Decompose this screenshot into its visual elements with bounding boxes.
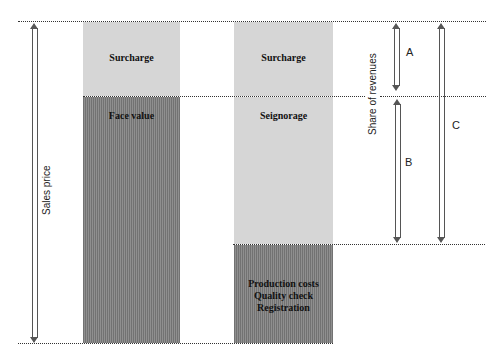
bracket-c-arrow [439,28,445,238]
face-value-block: Face value [83,97,180,343]
sales-price-arrow [32,28,38,338]
bottom-reference-line [18,343,333,344]
bracket-b-label: B [405,156,412,168]
share-of-revenues-label: Share of revenues [367,53,378,135]
face-value-label: Face value [83,110,180,122]
right-surcharge-block: Surcharge [234,22,333,96]
production-costs-block: Production costs Quality check Registrat… [234,245,333,343]
right-surcharge-label: Surcharge [234,52,333,64]
registration-label: Registration [234,302,333,314]
seignorage-block: Seignorage [234,97,333,244]
quality-check-label: Quality check [234,290,333,302]
seignorage-label: Seignorage [234,110,333,122]
left-surcharge-label: Surcharge [83,52,180,64]
production-costs-label: Production costs [234,278,333,290]
left-surcharge-block: Surcharge [83,22,180,96]
bracket-b-arrow [395,104,401,238]
bracket-a-label: A [406,46,413,58]
sales-price-label: Sales price [41,166,52,215]
surcharge-boundary-line-right [380,96,486,97]
bracket-a-arrow [394,28,400,86]
bracket-c-label: C [452,119,460,131]
